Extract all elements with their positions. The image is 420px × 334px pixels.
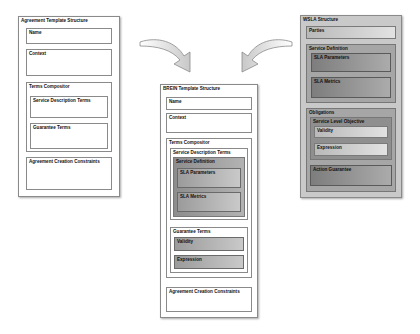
ag-label: Action Guarantee [311,166,391,174]
slam-label: SLA Metrics [312,78,390,86]
action-guarantee-box: Action Guarantee [310,165,392,186]
slam-label: SLA Metrics [178,193,240,201]
agreement-creation-constraints-box: Agreement Creation Constraints [26,157,112,190]
expression-label: Expression [315,144,387,152]
sla-parameters-box: SLA Parameters [177,168,241,188]
context-label: Context [167,114,251,122]
validity-label: Validity [315,127,387,135]
gt-label: Guarantee Terms [171,228,247,236]
sd-label: Service Definition [307,45,395,53]
left-curved-arrow-icon [138,36,200,76]
name-box: Name [166,97,252,110]
context-box: Context [166,113,252,133]
parties-box: Parties [306,26,396,39]
terms-label: Terms Compositor [167,139,251,147]
validity-box: Validity [314,126,388,138]
sla-parameters-box: SLA Parameters [311,53,391,72]
sla-metrics-box: SLA Metrics [177,192,241,212]
acc-label: Agreement Creation Constraints [27,158,111,166]
slap-label: SLA Parameters [178,169,240,177]
right-curved-arrow-icon [232,36,294,76]
expression-box: Expression [314,143,388,156]
gt-label: Guarantee Terms [31,124,107,132]
slap-label: SLA Parameters [312,54,390,62]
terms-label: Terms Compositor [27,83,111,91]
name-label: Name [167,98,251,106]
acc-label: Agreement Creation Constraints [167,288,251,296]
slo-label: Service Level Objective [311,118,391,126]
agreement-creation-constraints-box: Agreement Creation Constraints [166,287,252,312]
sdt-label: Service Description Terms [171,149,247,157]
service-description-terms-box: Service Description Terms [30,96,108,118]
context-box: Context [26,49,112,76]
sd-label: Service Definition [174,158,244,166]
expression-box: Expression [174,255,244,269]
sla-metrics-box: SLA Metrics [311,77,391,98]
validity-label: Validity [175,238,243,246]
context-label: Context [27,50,111,58]
parties-label: Parties [307,27,395,35]
obligations-label: Obligations [307,109,395,117]
box-title: BREIN Template Structure [161,85,257,93]
name-box: Name [26,28,112,44]
guarantee-terms-box: Guarantee Terms [30,123,108,149]
box-title: WSLA Structure [301,16,401,24]
expression-label: Expression [175,256,243,264]
sdt-label: Service Description Terms [31,97,107,105]
name-label: Name [27,29,111,37]
validity-box: Validity [174,237,244,251]
box-title: Agreement Template Structure [19,17,119,25]
